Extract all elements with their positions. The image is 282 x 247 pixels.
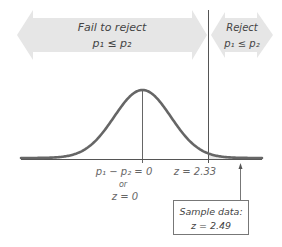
reject-hypothesis: p₁ ≤ p₂	[223, 38, 259, 49]
reject-title: Reject	[226, 22, 259, 33]
fail-to-reject-title: Fail to reject	[78, 21, 147, 34]
center-label-z: z = 0	[111, 191, 138, 202]
sample-data-value: z = 2.49	[190, 220, 231, 231]
center-label-difference: p₁ − p₂ = 0	[95, 166, 153, 177]
center-label-or: or	[119, 180, 128, 189]
hypothesis-test-diagram: Fail to reject p₁ ≤ p₂ Reject p₁ ≤ p₂ p₁…	[0, 0, 282, 247]
reject-region-arrow	[211, 12, 273, 58]
sample-data-arrowhead-icon	[239, 163, 243, 169]
fail-to-reject-hypothesis: p₁ ≤ p₂	[92, 37, 133, 50]
sample-data-label: Sample data:	[179, 206, 242, 217]
fail-to-reject-region-arrow	[17, 10, 207, 60]
normal-curve	[21, 90, 262, 158]
critical-value-label: z = 2.33	[173, 166, 216, 177]
